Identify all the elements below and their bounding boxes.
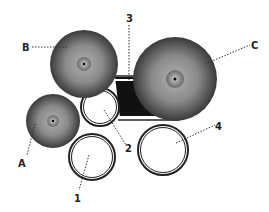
cymbal-a (26, 94, 80, 148)
label-c: C (251, 39, 258, 52)
label-2: 2 (125, 142, 132, 155)
label-a: A (18, 157, 26, 170)
drum-1 (69, 134, 115, 180)
label-4: 4 (215, 120, 222, 133)
label-b: B (22, 41, 30, 54)
label-1: 1 (74, 192, 81, 205)
drum-kit-diagram: B C 3 A 1 2 4 (0, 0, 269, 212)
label-3: 3 (126, 12, 133, 25)
cymbal-c (133, 37, 217, 121)
drum-4 (138, 125, 188, 175)
cymbal-b (50, 30, 118, 98)
